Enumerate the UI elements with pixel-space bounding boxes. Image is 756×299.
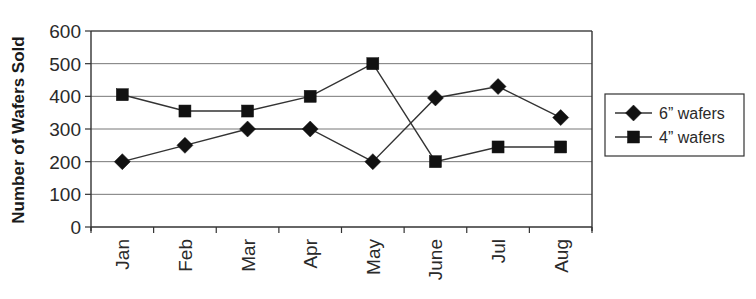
x-tick-label: Mar: [238, 238, 259, 271]
x-tick-label: Aug: [551, 239, 572, 273]
square-marker: [555, 141, 567, 153]
square-marker: [116, 89, 128, 101]
square-marker: [367, 58, 379, 70]
x-tick-label: Jan: [112, 239, 133, 270]
y-axis-label: Number of Wafers Sold: [9, 36, 28, 223]
y-tick-label: 600: [49, 21, 81, 42]
x-tick-label: Jul: [488, 239, 509, 263]
y-tick-label: 500: [49, 54, 81, 75]
legend-label: 6” wafers: [659, 105, 725, 122]
x-tick-label: Feb: [175, 239, 196, 272]
x-tick-label: June: [425, 239, 446, 280]
y-tick-label: 400: [49, 86, 81, 107]
diamond-marker: [553, 110, 569, 126]
y-tick-label: 100: [49, 184, 81, 205]
legend: 6” wafers4” wafers: [605, 94, 744, 156]
diamond-marker: [114, 154, 130, 170]
x-tick-label: May: [363, 239, 384, 275]
diamond-marker: [240, 121, 256, 137]
square-marker: [628, 131, 640, 143]
series-diamond: [114, 79, 568, 170]
square-marker: [179, 105, 191, 117]
square-marker: [429, 156, 441, 168]
square-marker: [242, 105, 254, 117]
diamond-marker: [177, 137, 193, 153]
x-axis-ticks: JanFebMarAprMayJuneJulAug: [91, 227, 592, 280]
legend-box: [605, 94, 744, 156]
y-tick-label: 200: [49, 152, 81, 173]
x-tick-label: Apr: [300, 238, 321, 268]
gridlines: [91, 31, 592, 194]
y-tick-label: 0: [70, 217, 81, 238]
axes: [91, 31, 592, 231]
y-tick-label: 300: [49, 119, 81, 140]
legend-label: 4” wafers: [659, 129, 725, 146]
diamond-marker: [302, 121, 318, 137]
square-marker: [304, 90, 316, 102]
diamond-marker: [490, 79, 506, 95]
square-marker: [492, 141, 504, 153]
y-axis-ticks: 0100200300400500600: [49, 21, 91, 238]
line-chart: 0100200300400500600 JanFebMarAprMayJuneJ…: [0, 0, 756, 299]
series-lines: [114, 58, 568, 170]
